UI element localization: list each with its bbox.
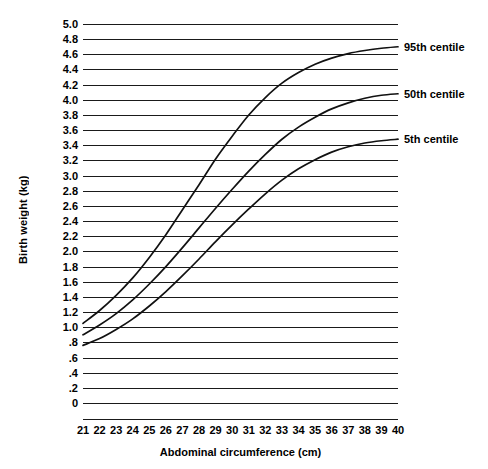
y-tick-label: 2.0 [38,246,78,257]
y-tick-label: 4.2 [38,80,78,91]
annotation-95th-centile: 95th centile [404,42,465,53]
curve-5th-centile [83,139,398,345]
y-tick-label: 1.2 [38,307,78,318]
y-tick-label: 3.8 [38,110,78,121]
y-tick-label: .6 [38,353,78,364]
y-tick-label: 3.0 [38,171,78,182]
y-tick-label: 3.6 [38,125,78,136]
y-tick-label: 0 [38,398,78,409]
y-tick-label: 1.8 [38,262,78,273]
y-tick-label: 2.2 [38,231,78,242]
centile-curves [83,24,398,403]
annotation-50th-centile: 50th centile [404,89,465,100]
y-tick-label: 2.8 [38,186,78,197]
chart-figure: Birth weight (kg) 0.2.4.6.81.01.21.41.61… [0,0,488,469]
curve-50th-centile [83,94,398,335]
annotation-5th-centile: 5th centile [404,134,458,145]
y-tick-label: 4.6 [38,49,78,60]
y-tick-label: .2 [38,383,78,394]
plot-area [83,24,398,403]
x-axis-line [83,419,398,420]
y-tick-label: 4.4 [38,64,78,75]
y-tick-label: .4 [38,368,78,379]
y-tick-label: 1.6 [38,277,78,288]
y-tick-label: .8 [38,337,78,348]
y-tick-label: 4.0 [38,95,78,106]
y-tick-label: 5.0 [38,19,78,30]
x-axis-title: Abdominal circumference (cm) [83,446,398,458]
y-tick-label: 2.4 [38,216,78,227]
y-tick-label: 3.4 [38,140,78,151]
x-tick-label: 40 [386,424,410,436]
y-tick-label: 4.8 [38,34,78,45]
y-axis-title: Birth weight (kg) [14,150,32,290]
y-tick-label: 1.0 [38,322,78,333]
y-tick-label: 3.2 [38,155,78,166]
gridline-y [83,403,398,404]
curve-95th-centile [83,47,398,324]
y-tick-label: 1.4 [38,292,78,303]
y-tick-label: 2.6 [38,201,78,212]
